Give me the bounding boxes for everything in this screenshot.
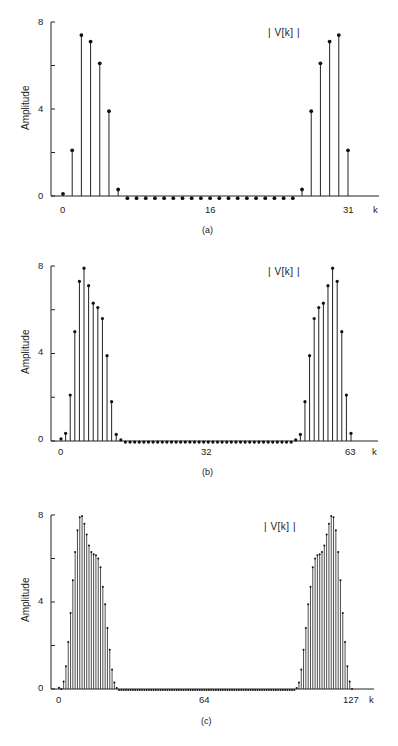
xtick-label-mid: 64 (199, 694, 210, 705)
xtick-label-mid: 16 (205, 204, 216, 215)
ytick-label-8: 8 (38, 260, 43, 271)
x-axis-label: k (369, 694, 374, 705)
legend-label: | V[k] | (268, 27, 300, 38)
xtick-label-0: 0 (58, 446, 63, 457)
panel-caption: (a) (202, 225, 213, 235)
chart-panel-a: 8 4 0 Amplitude 0 16 31 k | V[k] | (a) (0, 0, 398, 250)
y-axis-label: Amplitude (20, 86, 31, 130)
xtick-label-end: 63 (345, 446, 356, 457)
xtick-label-mid: 32 (201, 446, 212, 457)
stem-plot-b (0, 250, 398, 500)
xtick-label-0: 0 (60, 204, 65, 215)
ytick-label-0: 0 (38, 190, 43, 201)
chart-panel-b: 8 4 0 Amplitude 0 32 63 k | V[k] | (b) (0, 250, 398, 500)
ytick-label-8: 8 (38, 16, 43, 27)
panel-caption: (b) (202, 467, 213, 477)
xtick-label-end: 31 (343, 204, 354, 215)
chart-panel-c: 8 4 0 Amplitude 0 64 127 k | V[k] | (c) (0, 500, 398, 746)
x-axis-label: k (372, 446, 377, 457)
legend-label: | V[k] | (264, 521, 296, 532)
ytick-label-8: 8 (38, 509, 43, 520)
y-axis-label: Amplitude (20, 578, 31, 622)
ytick-label-4: 4 (38, 103, 43, 114)
ytick-label-4: 4 (38, 595, 43, 606)
x-axis-label: k (373, 204, 378, 215)
y-axis-label: Amplitude (20, 330, 31, 374)
panel-caption: (c) (201, 716, 212, 726)
xtick-label-end: 127 (343, 694, 359, 705)
stem-plot-c (0, 500, 398, 746)
ytick-label-4: 4 (38, 346, 43, 357)
ytick-label-0: 0 (38, 682, 43, 693)
xtick-label-0: 0 (56, 694, 61, 705)
legend-label: | V[k] | (268, 266, 300, 277)
ytick-label-0: 0 (38, 433, 43, 444)
